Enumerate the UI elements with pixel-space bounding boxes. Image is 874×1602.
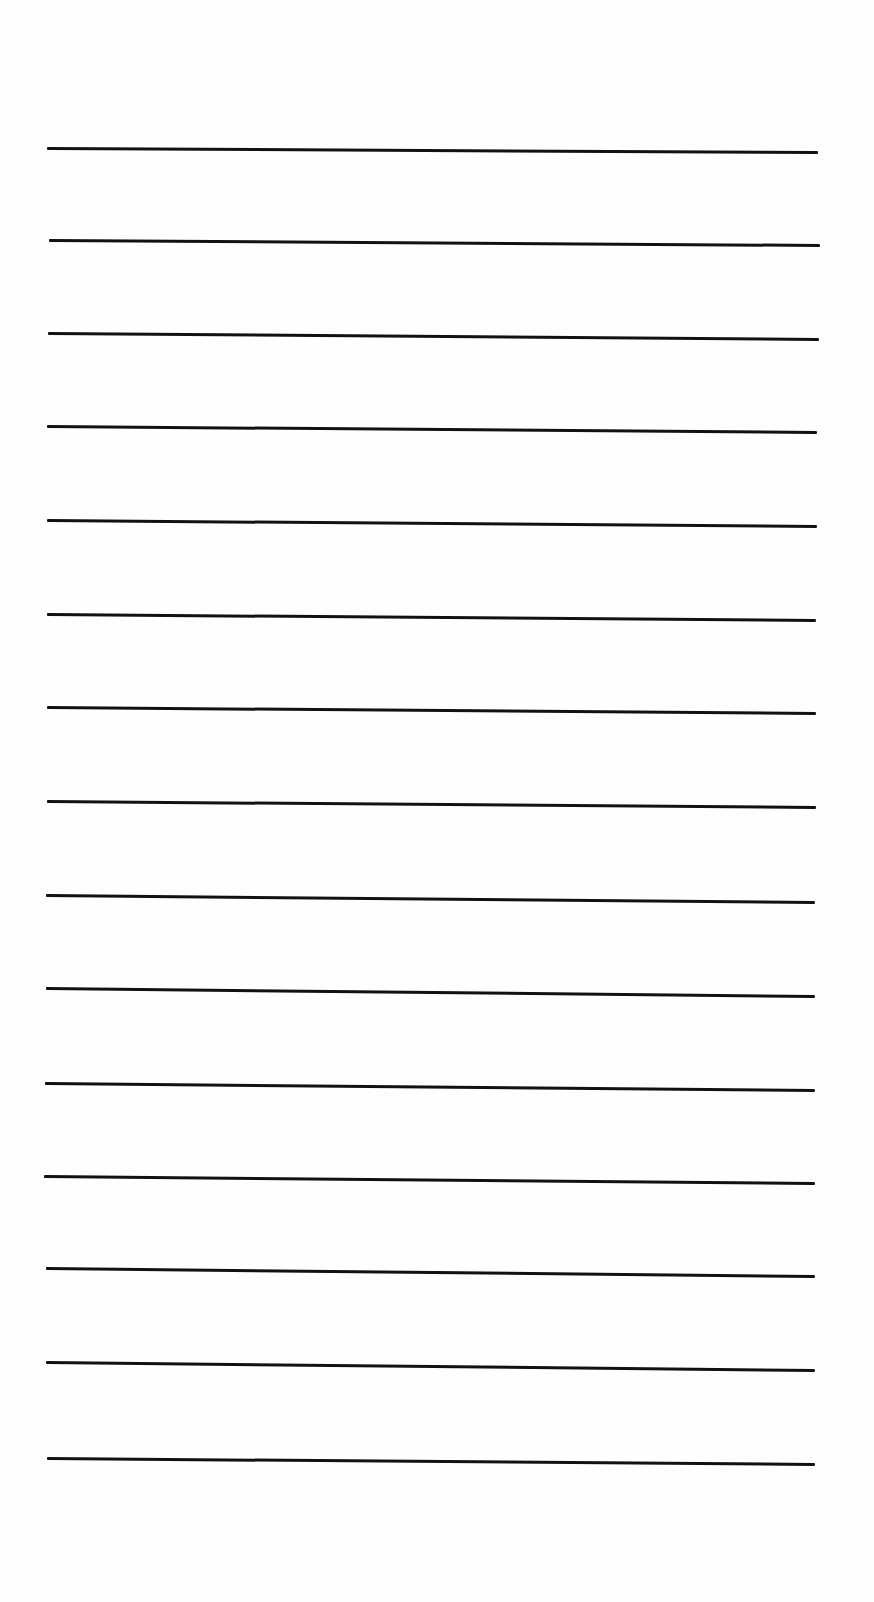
ruled-line-4 bbox=[47, 425, 817, 434]
ruled-line-9 bbox=[46, 894, 815, 904]
ruled-line-15 bbox=[47, 1457, 815, 1466]
ruled-line-14 bbox=[46, 1361, 815, 1372]
ruled-line-1 bbox=[47, 147, 818, 154]
ruled-line-2 bbox=[49, 239, 820, 247]
ruled-line-3 bbox=[48, 332, 819, 341]
ruled-line-13 bbox=[46, 1267, 815, 1278]
ruled-line-10 bbox=[46, 987, 815, 998]
ruled-line-8 bbox=[47, 800, 816, 809]
ruled-line-12 bbox=[44, 1175, 815, 1185]
ruled-line-7 bbox=[47, 706, 816, 715]
lined-page bbox=[0, 0, 874, 1602]
ruled-line-5 bbox=[47, 519, 817, 528]
ruled-line-11 bbox=[45, 1082, 815, 1092]
ruled-line-6 bbox=[47, 613, 816, 622]
